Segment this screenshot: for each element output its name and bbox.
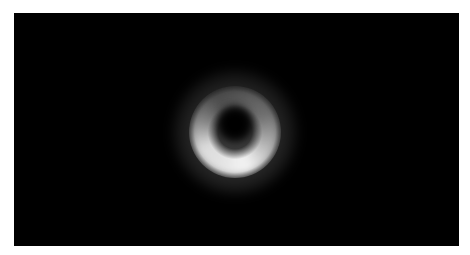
- image-frame: [14, 13, 459, 246]
- dark-shadow-center: [217, 105, 253, 143]
